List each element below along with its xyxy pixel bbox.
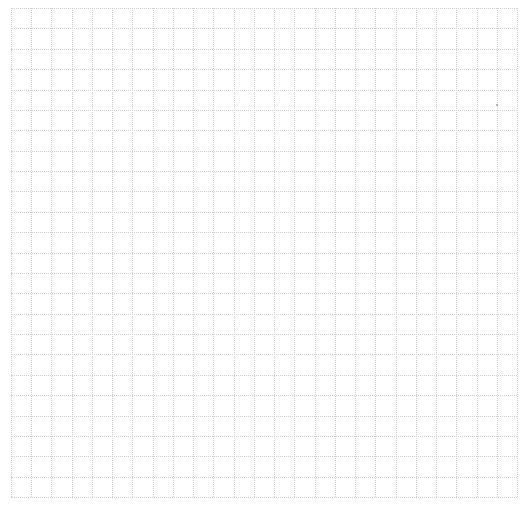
- grid-horizontal-line: [11, 253, 517, 254]
- grid-horizontal-line: [11, 314, 517, 315]
- grid-horizontal-line: [11, 49, 517, 50]
- grid-horizontal-line: [11, 293, 517, 294]
- grid-horizontal-line: [11, 28, 517, 29]
- grid-horizontal-line: [11, 110, 517, 111]
- grid-horizontal-line: [11, 273, 517, 274]
- grid-horizontal-line: [11, 436, 517, 437]
- grid-horizontal-line: [11, 69, 517, 70]
- grid-horizontal-line: [11, 151, 517, 152]
- grid-horizontal-line: [11, 171, 517, 172]
- grid-horizontal-line: [11, 8, 517, 9]
- grid-horizontal-line: [11, 497, 517, 498]
- grid-horizontal-line: [11, 90, 517, 91]
- grid-horizontal-line: [11, 212, 517, 213]
- grid-horizontal-line: [11, 395, 517, 396]
- paper-speck: [496, 104, 498, 106]
- grid-horizontal-line: [11, 456, 517, 457]
- grid-horizontal-line: [11, 232, 517, 233]
- grid-horizontal-line: [11, 130, 517, 131]
- grid-vertical-line: [517, 8, 518, 497]
- grid-horizontal-line: [11, 191, 517, 192]
- grid-horizontal-line: [11, 334, 517, 335]
- grid-horizontal-line: [11, 477, 517, 478]
- grid-horizontal-line: [11, 354, 517, 355]
- grid-horizontal-line: [11, 375, 517, 376]
- graph-paper-grid: [11, 8, 517, 497]
- grid-horizontal-line: [11, 416, 517, 417]
